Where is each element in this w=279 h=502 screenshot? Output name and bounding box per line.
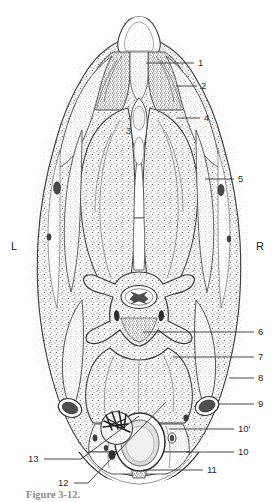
label-12: 12 <box>58 478 69 488</box>
label-3: 3 <box>126 127 131 136</box>
label-2: 2 <box>201 81 206 91</box>
label-6: 6 <box>258 327 263 337</box>
label-9: 9 <box>258 399 263 409</box>
anatomical-figure: 1 2 4 5 6 7 8 9 10' 10 11 12 13 3 L R Fi… <box>0 0 279 502</box>
label-8: 8 <box>258 373 263 383</box>
right-side-marker: R <box>256 241 264 252</box>
label-7: 7 <box>258 352 263 362</box>
label-4: 4 <box>204 113 209 123</box>
label-11: 11 <box>207 465 217 475</box>
left-side-marker: L <box>11 241 17 252</box>
label-1: 1 <box>198 58 203 68</box>
label-5: 5 <box>238 174 243 184</box>
label-10-prime: 10' <box>238 424 250 434</box>
label-10: 10 <box>238 447 249 457</box>
label-13: 13 <box>28 454 39 464</box>
figure-caption: Figure 3-12. <box>26 489 258 502</box>
figure-caption-text: Figure 3-12. <box>26 489 80 500</box>
